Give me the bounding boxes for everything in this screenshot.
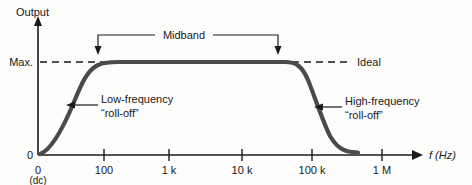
midband-bracket-right bbox=[213, 35, 278, 46]
high-rolloff-label-line1: High-frequency bbox=[345, 95, 420, 107]
ideal-label: Ideal bbox=[357, 56, 381, 68]
midband-label: Midband bbox=[163, 29, 205, 41]
x-tick-label-100k: 100 k bbox=[299, 164, 326, 176]
high-frequency-rolloff-callout: High-frequency “roll-off” bbox=[314, 95, 420, 121]
x-tick-label-1M: 1 M bbox=[373, 164, 391, 176]
low-frequency-rolloff-callout: Low-frequency “roll-off” bbox=[66, 93, 174, 119]
x-axis-title: f (Hz) bbox=[429, 149, 456, 161]
frequency-response-figure: Midband Ideal Low-frequency “roll-off” H… bbox=[0, 0, 472, 185]
x-axis-arrowhead bbox=[412, 150, 423, 160]
midband-arrowhead-right bbox=[275, 46, 282, 55]
y-tick-label-zero: 0 bbox=[27, 149, 33, 161]
midband-bracket-left bbox=[98, 35, 155, 52]
high-rolloff-label-line2: “roll-off” bbox=[345, 109, 383, 121]
low-rolloff-label-line2: “roll-off” bbox=[101, 107, 139, 119]
x-origin-sublabel-dc: (dc) bbox=[29, 175, 46, 185]
frequency-response-chart: Midband Ideal Low-frequency “roll-off” H… bbox=[0, 0, 472, 185]
axes-group bbox=[34, 16, 423, 160]
y-tick-label-max: Max. bbox=[9, 56, 33, 68]
frequency-response-curve bbox=[40, 62, 358, 154]
midband-bracket: Midband bbox=[95, 29, 282, 55]
midband-arrowhead-left bbox=[95, 46, 102, 55]
y-axis-title: Output bbox=[16, 6, 49, 18]
x-tick-label-1k: 1 k bbox=[162, 164, 177, 176]
x-tick-label-10k: 10 k bbox=[232, 164, 253, 176]
low-rolloff-label-line1: Low-frequency bbox=[101, 93, 174, 105]
x-tick-label-100: 100 bbox=[95, 164, 113, 176]
